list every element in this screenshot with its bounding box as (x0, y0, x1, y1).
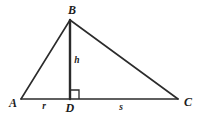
vertex-label-B: B (68, 4, 76, 16)
vertex-label-D: D (66, 102, 75, 114)
vertex-label-A: A (9, 97, 17, 109)
segment-BC (70, 20, 178, 99)
altitude-length-label-h: h (74, 56, 79, 66)
segment-AB (21, 20, 70, 99)
base-segment-label-s: s (119, 103, 123, 113)
geometry-figure: B A C D h r s (0, 0, 199, 128)
vertex-label-C: C (184, 96, 192, 108)
base-segment-label-r: r (42, 102, 46, 112)
triangle-sides (21, 20, 178, 99)
right-angle-marker-icon (70, 90, 79, 99)
triangle-diagram-canvas (0, 0, 199, 128)
